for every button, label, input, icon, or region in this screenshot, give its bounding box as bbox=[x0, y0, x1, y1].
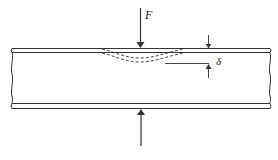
left-break-line bbox=[11, 53, 12, 104]
top-plate-right-cap bbox=[270, 49, 271, 53]
top-plate bbox=[11, 49, 271, 53]
bottom-plate-left-cap bbox=[11, 104, 12, 109]
right-break-line bbox=[269, 53, 270, 104]
bottom-plate bbox=[11, 104, 271, 109]
deflection-curves bbox=[102, 49, 183, 62]
bottom-plate-right-cap bbox=[270, 104, 271, 109]
top-plate-left-cap bbox=[11, 49, 12, 53]
plate-deflection-diagram bbox=[0, 0, 278, 160]
delta-dimension bbox=[165, 35, 209, 78]
force-label: F bbox=[145, 9, 152, 21]
deflection-label: δ bbox=[216, 56, 221, 67]
